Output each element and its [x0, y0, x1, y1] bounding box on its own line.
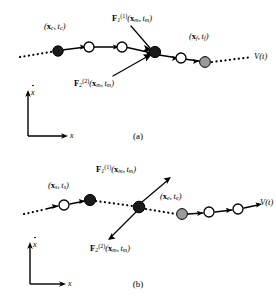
panel-b: (xs, ts) F1(1)(xm, tm) F2(2)(xm, tm) (xe… — [0, 154, 276, 308]
panel-a: (xc, tc) F1(1)(xm, tm) F2(2)(xm, tm) (xf… — [0, 0, 276, 154]
figure-trajectory-diagram: (xc, tc) F1(1)(xm, tm) F2(2)(xm, tm) (xf… — [0, 0, 276, 308]
axis-label-y: x — [31, 88, 35, 97]
axis-label-y: x — [33, 240, 37, 249]
panel-a-caption: (a) — [0, 131, 276, 141]
panel-b-caption: (b) — [0, 279, 276, 289]
